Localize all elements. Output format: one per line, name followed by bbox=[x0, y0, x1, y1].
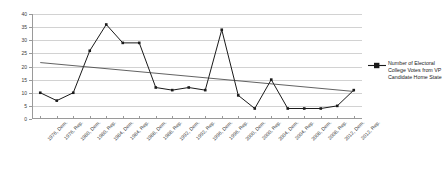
x-tick-mark bbox=[205, 116, 206, 119]
x-tick-mark bbox=[73, 116, 74, 119]
chart-container: 4035302520151050 1976, Dem.1976, Rep.198… bbox=[0, 0, 443, 169]
x-tick-mark bbox=[304, 116, 305, 119]
data-point-marker bbox=[171, 89, 174, 92]
x-tick-mark bbox=[354, 116, 355, 119]
data-point-marker bbox=[220, 28, 223, 31]
data-point-marker bbox=[204, 89, 207, 92]
legend-series-marker-icon bbox=[368, 62, 386, 69]
data-point-marker bbox=[253, 107, 256, 110]
data-point-marker bbox=[72, 91, 75, 94]
trendline bbox=[40, 63, 354, 92]
data-point-marker bbox=[39, 91, 42, 94]
legend-series-label: Number of Electoral College Votes from V… bbox=[388, 60, 443, 81]
x-tick-mark bbox=[90, 116, 91, 119]
data-point-marker bbox=[187, 86, 190, 89]
data-point-marker bbox=[121, 42, 124, 45]
x-tick-mark bbox=[123, 116, 124, 119]
data-point-marker bbox=[286, 107, 289, 110]
data-point-marker bbox=[55, 99, 58, 102]
data-point-marker bbox=[105, 23, 108, 26]
data-point-marker bbox=[138, 42, 141, 45]
x-tick-mark bbox=[288, 116, 289, 119]
x-tick-mark bbox=[255, 116, 256, 119]
x-tick-mark bbox=[271, 116, 272, 119]
x-tick-mark bbox=[337, 116, 338, 119]
data-point-marker bbox=[154, 86, 157, 89]
data-point-marker bbox=[319, 107, 322, 110]
data-point-marker bbox=[270, 78, 273, 81]
x-tick-mark bbox=[321, 116, 322, 119]
data-point-marker bbox=[303, 107, 306, 110]
x-axis: 1976, Dem.1976, Rep.1980, Dem.1980, Rep.… bbox=[32, 120, 362, 169]
x-tick-mark bbox=[172, 116, 173, 119]
chart-legend: Number of Electoral College Votes from V… bbox=[368, 60, 443, 81]
x-tick-mark bbox=[238, 116, 239, 119]
x-tick-mark bbox=[57, 116, 58, 119]
data-point-marker bbox=[237, 94, 240, 97]
x-tick-mark bbox=[156, 116, 157, 119]
x-tick-mark bbox=[139, 116, 140, 119]
data-point-marker bbox=[88, 49, 91, 52]
x-tick-mark bbox=[222, 116, 223, 119]
data-point-marker bbox=[336, 105, 339, 108]
x-tick-mark bbox=[106, 116, 107, 119]
x-tick-mark bbox=[40, 116, 41, 119]
x-tick-mark bbox=[189, 116, 190, 119]
